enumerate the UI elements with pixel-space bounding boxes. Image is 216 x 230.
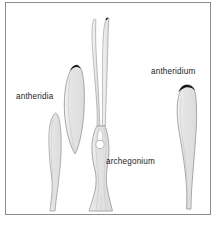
antheridium-small-left: [49, 113, 61, 211]
label-antheridia: antheridia: [16, 93, 53, 101]
archegonium-egg-cell: [96, 140, 104, 148]
figure-container: antheridia antheridium archegonium: [0, 0, 216, 230]
archegonium-neck-right-prong: [102, 17, 109, 126]
antheridium-small-body: [49, 113, 61, 211]
archegonium-canal-chamber: [98, 130, 103, 141]
antheridium-large-left: [64, 65, 84, 154]
label-archegonium: archegonium: [106, 158, 155, 166]
label-antheridium: antheridium: [151, 68, 195, 76]
botanical-diagram-svg: [0, 0, 216, 230]
archegonium-neck-left-prong: [92, 19, 100, 126]
antheridium-large-body: [64, 65, 84, 154]
archegonium-center: [89, 17, 113, 211]
antheridium-right: [177, 85, 196, 209]
